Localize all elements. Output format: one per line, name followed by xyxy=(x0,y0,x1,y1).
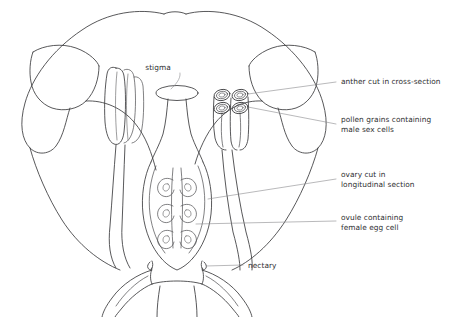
leader-ovule xyxy=(196,221,336,224)
ovule-group xyxy=(158,178,197,248)
receptacle-and-sepals xyxy=(102,261,252,317)
leader-stigma xyxy=(171,73,180,89)
petal-junction xyxy=(164,12,186,14)
flower-diagram: stigma anther cut in cross-section polle… xyxy=(0,0,474,317)
leader-nectary xyxy=(206,265,243,266)
label-stigma: stigma xyxy=(145,63,171,72)
leader-ovary xyxy=(208,179,336,199)
label-anther-cross-section: anther cut in cross-section xyxy=(341,77,441,86)
ovule xyxy=(158,230,174,248)
label-ovule: ovule containing female egg cell xyxy=(341,213,406,232)
leader-anther xyxy=(248,82,336,94)
label-ovary: ovary cut in longitudinal section xyxy=(341,170,415,189)
stigma-head xyxy=(156,86,198,101)
petal-left xyxy=(22,11,164,270)
leader-pollen xyxy=(248,107,336,124)
ovule xyxy=(180,230,196,248)
flower-diagram-canvas: stigma anther cut in cross-section polle… xyxy=(0,0,474,317)
stamen-side-view xyxy=(105,67,144,268)
stamen-cross-section xyxy=(213,88,252,270)
label-pollen-grains: pollen grains containing male sex cells xyxy=(341,115,434,134)
label-nectary: nectary xyxy=(248,261,277,270)
pistil xyxy=(142,86,211,271)
petal-right xyxy=(186,11,326,270)
